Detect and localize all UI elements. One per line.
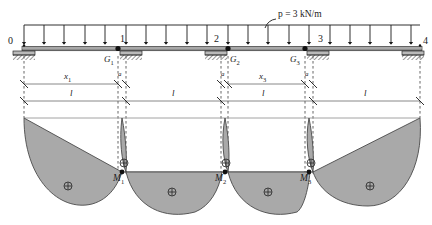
moment-area-span-1 [24, 118, 122, 205]
load-label: p = 3 kN/m [278, 10, 322, 20]
moment-M2-letter: M [215, 173, 223, 183]
dim-label-l3: l [262, 89, 265, 98]
node-label-2: 2 [214, 34, 219, 44]
support-1 [120, 51, 142, 60]
node-label-1: 1 [120, 34, 125, 44]
distributed-load-group [24, 19, 420, 44]
dim-x1-sub: 1 [68, 76, 71, 83]
moment-M1-letter: M [113, 173, 121, 183]
dimension-row-lower [20, 97, 424, 105]
hinge-dot-G1 [115, 46, 120, 51]
moment-M3-letter: M [300, 173, 308, 183]
support-2 [205, 51, 227, 60]
support-3 [307, 51, 329, 60]
moment-M1-sub: 1 [121, 178, 124, 185]
hinge-dot-G3 [302, 46, 307, 51]
sign-plus-span3 [264, 188, 272, 196]
sign-plus-M1 [120, 159, 128, 167]
hinge-label-G1: G1 [104, 55, 114, 66]
sign-plus-M3 [307, 159, 315, 167]
moment-label-M1: M1 [113, 174, 124, 185]
hinge-label-G3-sub: 3 [297, 59, 300, 66]
dim-x3-sub: 3 [263, 76, 266, 83]
dim-label-a2: a [221, 71, 225, 78]
sign-plus-span1 [64, 182, 72, 190]
dim-label-l2: l [172, 89, 175, 98]
moment-M2-sub: 2 [223, 178, 226, 185]
node-label-4: 4 [423, 36, 428, 46]
moment-area-span-3 [228, 172, 310, 214]
support-0 [13, 51, 35, 60]
moment-area-span-2 [126, 172, 222, 214]
moment-label-M3: M3 [300, 174, 311, 185]
hinge-label-G3: G3 [290, 55, 300, 66]
beam-group [22, 47, 422, 51]
moment-spike-M3 [307, 118, 313, 172]
moment-label-M2: M2 [215, 174, 226, 185]
support-4 [402, 51, 424, 60]
hinge-label-G2-sub: 2 [237, 59, 240, 66]
moment-diagram-group [24, 118, 420, 214]
supports-group [13, 51, 424, 60]
sign-plus-span2 [168, 188, 176, 196]
node-label-3: 3 [318, 34, 323, 44]
sign-plus-span4 [366, 182, 374, 190]
hinge-label-G1-sub: 1 [111, 59, 114, 66]
moment-spike-M1 [121, 118, 127, 172]
hinge-label-G2: G2 [230, 55, 240, 66]
moment-area-span-4 [313, 118, 420, 206]
dim-label-x3: x3 [259, 72, 266, 83]
sign-plus-M2 [222, 159, 230, 167]
dim-label-x1: x1 [64, 72, 71, 83]
dim-label-l1: l [70, 89, 73, 98]
dim-label-l4: l [364, 89, 367, 98]
hinge-dot-G2 [225, 46, 230, 51]
dim-label-a3: a [305, 71, 309, 78]
load-label-leader [265, 19, 276, 28]
node-label-0: 0 [8, 36, 13, 46]
figure-canvas: p = 3 kN/m 0 1 2 3 4 G1 G2 G3 x1 a a x3 … [0, 0, 432, 225]
dim-label-a1: a [118, 71, 122, 78]
moment-M3-sub: 3 [308, 178, 311, 185]
